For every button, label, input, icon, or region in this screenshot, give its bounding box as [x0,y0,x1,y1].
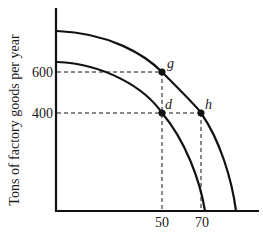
outer-ppf-curve [57,31,236,211]
y-axis-label: Tons of factory goods per year [7,34,22,206]
x-tick-70: 70 [195,215,209,230]
reference-lines [57,72,201,211]
point-label-h: h [205,97,212,112]
y-tick-400: 400 [32,106,53,121]
point-g [159,69,166,76]
inner-ppf-curve [57,62,205,211]
point-label-g: g [167,56,174,71]
y-tick-600: 600 [32,65,53,80]
point-h [198,110,205,117]
point-label-d: d [165,97,173,112]
x-tick-50: 50 [155,215,169,230]
ppf-chart: Tons of factory goods per year 600 400 5… [0,0,263,232]
